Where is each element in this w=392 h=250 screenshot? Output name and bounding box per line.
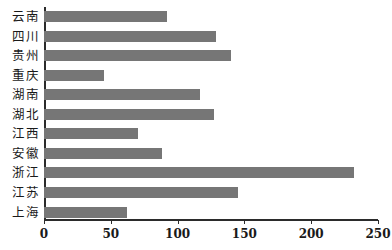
bar bbox=[44, 128, 138, 139]
bar-chart: 云南四川贵州重庆湖南湖北江西安徽浙江江苏上海 050100150200250 bbox=[0, 0, 392, 250]
category-label: 湖南 bbox=[12, 85, 39, 105]
x-tick-label: 50 bbox=[102, 227, 119, 241]
x-tick-mark bbox=[178, 220, 179, 224]
category-label: 四川 bbox=[12, 27, 39, 47]
x-tick-label: 250 bbox=[365, 227, 390, 241]
x-tick-mark bbox=[244, 220, 245, 224]
x-tick-mark bbox=[44, 220, 45, 224]
x-tick-label: 200 bbox=[299, 227, 324, 241]
category-label: 安徽 bbox=[12, 144, 39, 164]
category-label: 重庆 bbox=[12, 66, 39, 86]
bar bbox=[44, 31, 216, 42]
bar bbox=[44, 89, 200, 100]
bar bbox=[44, 50, 231, 61]
x-tick-label: 100 bbox=[165, 227, 190, 241]
category-label: 浙江 bbox=[12, 163, 39, 183]
x-tick-mark bbox=[378, 220, 379, 224]
bar bbox=[44, 148, 162, 159]
x-tick-label: 150 bbox=[232, 227, 257, 241]
x-tick-mark bbox=[311, 220, 312, 224]
bar bbox=[44, 109, 214, 120]
x-tick-label: 0 bbox=[40, 227, 48, 241]
bar bbox=[44, 167, 354, 178]
plot-area: 050100150200250 bbox=[44, 7, 378, 219]
category-label: 江西 bbox=[12, 124, 39, 144]
category-label: 贵州 bbox=[12, 46, 39, 66]
x-tick-mark bbox=[111, 220, 112, 224]
bar bbox=[44, 11, 167, 22]
category-label: 云南 bbox=[12, 7, 39, 27]
bar bbox=[44, 207, 127, 218]
category-label: 上海 bbox=[12, 203, 39, 223]
bar bbox=[44, 70, 104, 81]
x-axis-line bbox=[44, 219, 378, 221]
category-label: 湖北 bbox=[12, 105, 39, 125]
category-axis-labels: 云南四川贵州重庆湖南湖北江西安徽浙江江苏上海 bbox=[0, 7, 42, 219]
category-label: 江苏 bbox=[12, 183, 39, 203]
bar bbox=[44, 187, 238, 198]
